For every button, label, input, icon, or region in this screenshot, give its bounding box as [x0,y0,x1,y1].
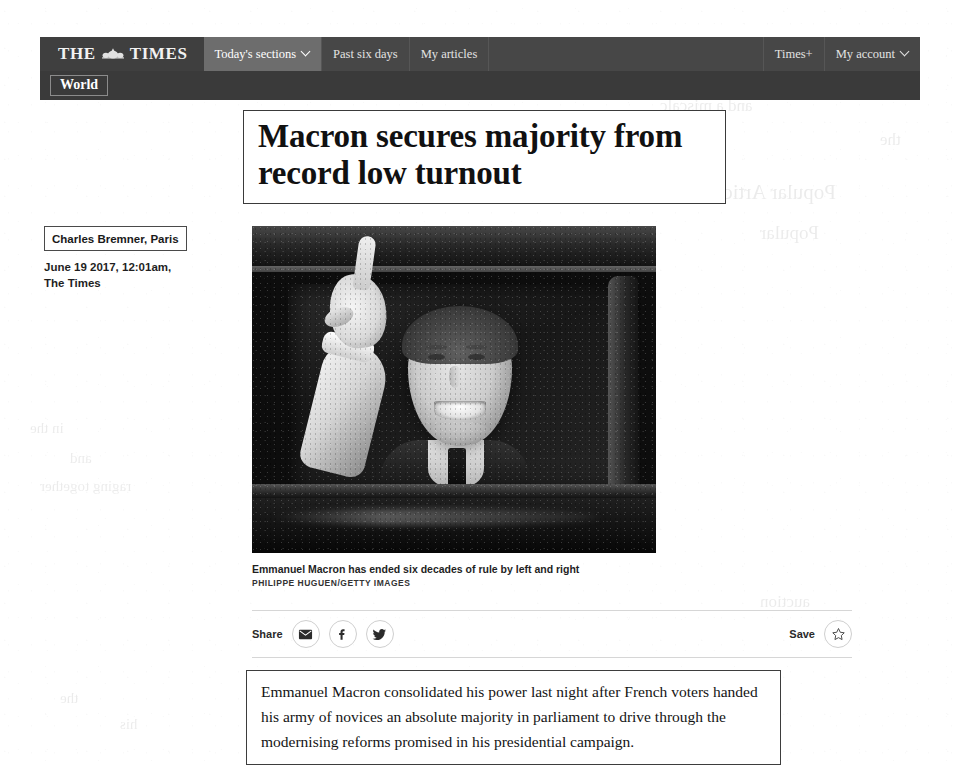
photo-caption: Emmanuel Macron has ended six decades of… [252,562,780,576]
email-icon [298,627,313,642]
photo-credit: PHILIPPE HUGUEN/GETTY IMAGES [252,578,780,588]
chevron-down-icon [901,48,909,56]
secondary-navigation: World [40,71,920,100]
page-title: Macron secures majority from record low … [258,118,713,193]
nav-item-todays-sections[interactable]: Today's sections [204,37,323,71]
save-article-button[interactable] [824,620,852,648]
nav-item-label: Past six days [333,47,398,62]
star-outline-icon [831,627,846,642]
byline-column: Charles Bremner, Paris June 19 2017, 12:… [44,226,234,291]
article-page: THE TIMES Today's sections Past [0,0,959,770]
nav-item-label: My account [836,47,895,62]
section-tag-world[interactable]: World [50,75,108,96]
photo-caption-block: Emmanuel Macron has ended six decades of… [252,562,780,588]
article-column: Emmanuel Macron has ended six decades of… [252,226,780,658]
save-label: Save [789,628,815,640]
byline-author: Charles Bremner, Paris [52,233,179,245]
nav-item-times-plus[interactable]: Times+ [763,37,824,71]
nav-item-label: Times+ [775,47,813,62]
byline-timestamp: June 19 2017, 12:01am,The Times [44,260,234,291]
share-label: Share [252,628,283,640]
nav-spacer [489,37,763,71]
share-group: Share [252,620,394,648]
logo-text-times: TIMES [130,44,188,64]
article-figure: Emmanuel Macron has ended six decades of… [252,226,780,588]
logo-text-the: THE [58,44,96,64]
nav-item-past-six-days[interactable]: Past six days [322,37,410,71]
site-logo[interactable]: THE TIMES [40,37,204,71]
photo-film-grain [252,226,656,553]
nav-item-my-account[interactable]: My account [824,37,920,71]
article-photo [252,226,656,553]
nav-item-label: My articles [421,47,478,62]
facebook-icon [335,627,350,642]
primary-navigation: THE TIMES Today's sections Past [40,37,920,71]
save-group: Save [789,620,852,648]
standfirst-container: Emmanuel Macron consolidated his power l… [246,670,781,765]
byline-author-box[interactable]: Charles Bremner, Paris [44,226,187,251]
article-action-bar: Share [252,610,852,658]
nav-item-label: Today's sections [215,47,297,62]
chevron-down-icon [302,48,310,56]
site-masthead: THE TIMES Today's sections Past [40,37,920,100]
headline-container: Macron secures majority from record low … [243,110,726,204]
nav-item-my-articles[interactable]: My articles [410,37,490,71]
times-crest-icon [100,46,126,62]
share-facebook-button[interactable] [329,620,357,648]
share-email-button[interactable] [292,620,320,648]
twitter-icon [372,627,387,642]
share-twitter-button[interactable] [366,620,394,648]
standfirst-paragraph: Emmanuel Macron consolidated his power l… [261,679,766,754]
